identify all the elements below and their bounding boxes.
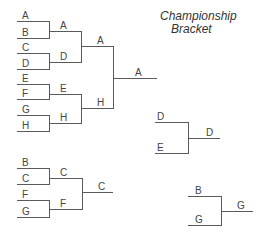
team-label: H <box>97 97 104 108</box>
bracket-diagram: Championship Bracket A B C D E F G H A D… <box>0 0 267 240</box>
team-label: B <box>22 157 29 168</box>
team-label: E <box>157 142 164 153</box>
team-label: B <box>22 27 29 38</box>
team-label: D <box>60 51 67 62</box>
match-line <box>188 197 222 226</box>
team-label: H <box>60 112 67 123</box>
consolation-bracket: B C F G C F C <box>17 157 113 218</box>
team-label: A <box>97 35 104 46</box>
title-line-2: Bracket <box>171 22 212 36</box>
match-b-g: B G G <box>188 185 253 226</box>
team-label: B <box>195 185 202 196</box>
team-label: G <box>22 206 30 217</box>
team-label: F <box>22 189 28 200</box>
team-label: C <box>22 42 29 53</box>
main-bracket: A B C D E F G H A D E H A H A <box>17 10 157 132</box>
team-label: D <box>157 111 164 122</box>
team-label: C <box>22 173 29 184</box>
team-label: A <box>60 20 67 31</box>
team-label: A <box>22 10 29 21</box>
team-label: F <box>60 198 66 209</box>
team-label: G <box>195 214 203 225</box>
team-label: D <box>22 58 29 69</box>
team-label: F <box>22 88 28 99</box>
team-label: G <box>22 104 30 115</box>
winner-label: G <box>237 200 245 211</box>
team-label: E <box>60 83 67 94</box>
title-line-1: Championship <box>160 9 237 23</box>
team-label: C <box>60 167 67 178</box>
team-label: H <box>22 120 29 131</box>
winner-label: C <box>98 181 105 192</box>
winner-label: A <box>135 67 142 78</box>
match-d-e: D E D <box>155 111 220 154</box>
winner-label: D <box>206 127 213 138</box>
team-label: E <box>22 73 29 84</box>
